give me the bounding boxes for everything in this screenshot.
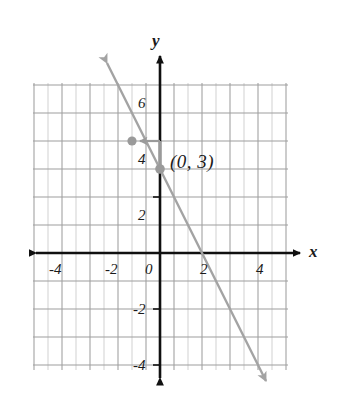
y-tick-label-4: 4 xyxy=(138,152,146,167)
point-marker-0-3 xyxy=(155,164,165,174)
graph-figure: -4 -2 0 2 4 6 4 2 -2 -4 x y (0, 3) xyxy=(0,0,338,417)
x-tick-label-neg4: -4 xyxy=(49,262,62,277)
y-tick-label-6: 6 xyxy=(138,96,146,111)
y-tick-label-2: 2 xyxy=(138,208,146,223)
x-axis-label: x xyxy=(309,243,318,260)
coordinate-plane-svg xyxy=(0,0,338,417)
x-tick-label-4: 4 xyxy=(256,262,264,277)
x-tick-label-neg2: -2 xyxy=(105,262,118,277)
plotted-line xyxy=(107,63,266,381)
x-tick-label-0: 0 xyxy=(145,262,153,277)
y-tick-label-neg4: -4 xyxy=(133,358,146,373)
y-axis-label: y xyxy=(152,32,160,49)
point-annotation-label: (0, 3) xyxy=(170,152,214,171)
x-tick-label-2: 2 xyxy=(200,262,208,277)
y-tick-label-neg2: -2 xyxy=(133,302,146,317)
point-marker-neg1-5 xyxy=(127,136,136,145)
